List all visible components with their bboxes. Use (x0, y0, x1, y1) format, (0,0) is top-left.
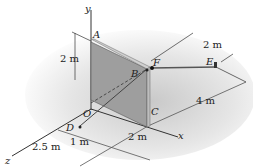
bracket-e (214, 62, 217, 68)
z-axis-label: z (4, 155, 11, 166)
dim-plate-height: 2 m (60, 53, 80, 64)
x-axis-label: x (178, 130, 184, 141)
label-a: A (92, 29, 100, 40)
label-c: C (151, 106, 159, 117)
dim-x-spacing: 2 m (128, 131, 148, 142)
point-b (145, 68, 148, 71)
y-axis-label: y (84, 3, 91, 14)
dim-d-z: 2.5 m (32, 141, 61, 152)
dim-ce-length: 4 m (196, 95, 216, 106)
cable-fe (151, 67, 216, 68)
label-f: F (152, 57, 161, 68)
dim-d-offset: 1 m (70, 136, 90, 147)
dim-e-offset: 2 m (203, 39, 223, 50)
label-e: E (205, 56, 214, 67)
label-d: D (65, 122, 74, 133)
statics-diagram: y z x A B C D E F O 2 m 2 m 4 m 2.5 m 1 … (0, 0, 253, 167)
plate-edge-side (147, 67, 150, 127)
label-b: B (130, 68, 138, 79)
point-d (79, 126, 82, 129)
label-o: O (83, 108, 91, 119)
diagram-svg: y z x A B C D E F O 2 m 2 m 4 m 2.5 m 1 … (0, 0, 253, 167)
